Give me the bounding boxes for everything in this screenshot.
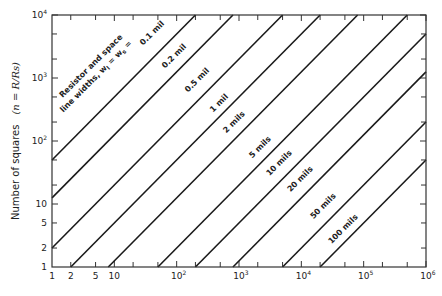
svg-text:5 mils: 5 mils	[247, 134, 273, 160]
svg-text:1 mil: 1 mil	[208, 92, 230, 114]
series-labels: 0.1 mil0.2 mil0.5 mil1 mil2 mils5 mils10…	[138, 19, 360, 246]
x-tick-label: 102	[171, 269, 186, 281]
svg-text:0.5 mil: 0.5 mil	[183, 66, 211, 94]
y-axis-label: Number of squares(n = R/Rs)	[10, 62, 21, 220]
y-axis-tick-labels: 12510102103104	[32, 8, 48, 272]
y-tick-label: 1	[41, 262, 47, 272]
y-tick-label: 102	[32, 134, 47, 146]
series-label: 1 mil	[205, 89, 234, 118]
y-tick-label: 2	[41, 243, 47, 253]
x-axis-tick-labels: 12510102103104105106	[49, 269, 436, 281]
chart: 12510102103104105106 12510102103104 0.1 …	[0, 0, 442, 296]
x-tick-label: 1	[49, 271, 55, 281]
series-label: 0.1 mil	[138, 19, 167, 48]
series-label: 10 mils	[264, 148, 294, 178]
svg-text:0.1 mil: 0.1 mil	[138, 19, 166, 47]
y-axis-title: Number of squares(n = R/Rs)	[10, 62, 21, 220]
x-tick-label: 2	[68, 271, 74, 281]
y-tick-label: 104	[32, 8, 47, 20]
annotation-line-1: Resistor and space	[58, 32, 125, 99]
x-tick-label: 10	[109, 271, 121, 281]
width-annotation: Resistor and space line widths, wl = ws …	[50, 31, 134, 115]
y-tick-label: 103	[32, 71, 47, 83]
x-tick-label: 103	[233, 269, 248, 281]
y-tick-label: 5	[41, 218, 47, 228]
x-tick-label: 106	[420, 269, 435, 281]
y-tick-label: 10	[36, 199, 48, 209]
svg-text:10 mils: 10 mils	[264, 148, 294, 178]
series-label: 5 mils	[246, 133, 275, 162]
x-tick-label: 105	[358, 269, 373, 281]
x-tick-label: 5	[93, 271, 99, 281]
annotation-line-2: line widths, wl = ws =	[58, 39, 134, 115]
x-tick-label: 104	[296, 269, 311, 281]
